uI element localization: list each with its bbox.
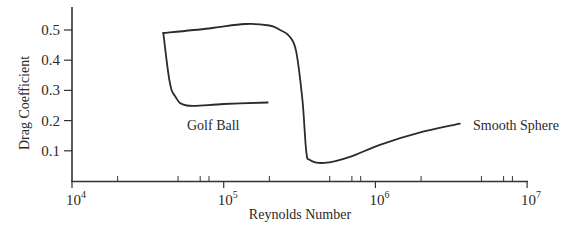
- golf-ball-label: Golf Ball: [187, 118, 240, 133]
- x-tick-label: 105: [218, 189, 238, 208]
- golf-ball-curve: [163, 33, 267, 106]
- x-tick-label: 104: [66, 189, 86, 208]
- series-lines: [163, 24, 460, 163]
- x-axis-label: Reynolds Number: [249, 207, 352, 222]
- x-tick-label: 107: [521, 189, 541, 208]
- x-tick-label: 106: [369, 189, 389, 208]
- smooth-sphere-label: Smooth Sphere: [473, 118, 559, 133]
- y-tick-label: 0.5: [41, 22, 60, 38]
- drag-coefficient-chart: 0.10.20.30.40.5 104105106107 Golf Ball S…: [0, 0, 573, 235]
- smooth-sphere-curve: [163, 24, 460, 163]
- y-tick-label: 0.3: [41, 82, 60, 98]
- y-tick-label: 0.4: [41, 52, 60, 68]
- y-tick-label: 0.1: [41, 143, 60, 159]
- y-axis-label: Drag Coefficient: [17, 56, 32, 150]
- y-ticks: 0.10.20.30.40.5: [41, 22, 72, 159]
- y-tick-label: 0.2: [41, 113, 60, 129]
